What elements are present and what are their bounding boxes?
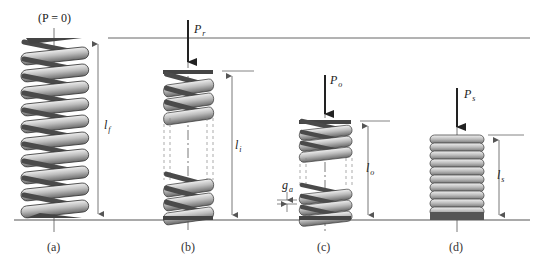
- caption-c: (c): [317, 240, 330, 255]
- length-label-ls: ls: [497, 168, 504, 184]
- caption-d: (d): [449, 240, 463, 255]
- spring-diagram: [0, 0, 543, 267]
- panel-b-installed-spring: [163, 20, 254, 230]
- length-label-lo: lo: [366, 161, 374, 177]
- panel-c-operating-spring: [277, 75, 390, 234]
- spring-coils-a: [20, 42, 89, 218]
- load-label-pr: Pr: [194, 22, 205, 38]
- load-label-po: Po: [330, 73, 342, 89]
- gap-label-ga: ga: [282, 178, 293, 194]
- panel-a-free-spring: [20, 28, 98, 232]
- caption-a: (a): [47, 240, 60, 255]
- zero-load-label: (P = 0): [38, 11, 71, 26]
- panel-d-solid-spring: [430, 88, 524, 232]
- load-label-ps: Ps: [464, 87, 475, 103]
- caption-b: (b): [181, 240, 195, 255]
- length-label-li: li: [235, 138, 242, 154]
- solid-coils: [430, 135, 484, 220]
- length-label-lf: lf: [104, 118, 111, 134]
